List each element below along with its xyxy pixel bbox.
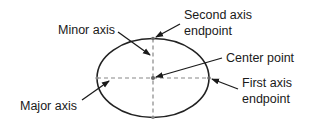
bottom-axis-endpoint (151, 116, 154, 119)
second-axis-label-line2: endpoint (184, 24, 232, 38)
first-axis-label-line1: First axis (242, 76, 292, 90)
first-axis-arrow (212, 79, 238, 89)
major-axis-arrow (82, 81, 109, 100)
first-axis-endpoint (207, 76, 211, 80)
second-axis-label-line1: Second axis (184, 8, 252, 22)
minor-axis-label: Minor axis (58, 23, 115, 37)
second-axis-endpoint (151, 37, 155, 41)
second-axis-arrow (156, 24, 180, 37)
center-point (151, 76, 155, 80)
ellipse-diagram: Minor axis Major axis Second axis endpoi… (0, 0, 311, 125)
center-point-arrow (156, 58, 222, 77)
center-point-label: Center point (226, 51, 295, 65)
minor-axis-arrow (118, 32, 150, 55)
left-axis-endpoint (95, 76, 98, 79)
major-axis-label: Major axis (20, 99, 77, 113)
first-axis-label-line2: endpoint (242, 92, 290, 106)
